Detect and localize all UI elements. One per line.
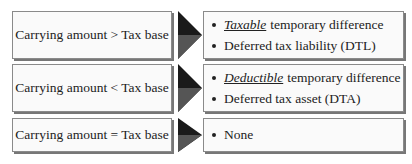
condition-label: Carrying amount < Tax base <box>15 80 168 96</box>
list-item: Deductible temporary difference <box>212 70 403 86</box>
condition-label: Carrying amount > Tax base <box>15 27 168 43</box>
arrow-right-icon <box>178 11 202 59</box>
condition-label: Carrying amount = Tax base <box>15 127 168 143</box>
result-box: Taxable temporary difference Deferred ta… <box>203 11 404 59</box>
bullet-icon <box>212 76 216 80</box>
arrow-right-icon <box>178 118 202 152</box>
result-box: Deductible temporary difference Deferred… <box>203 64 404 112</box>
list-item: Deferred tax liability (DTL) <box>212 38 403 54</box>
result-text: Deferred tax liability (DTL) <box>224 38 376 54</box>
result-text: temporary difference <box>287 70 400 86</box>
condition-box: Carrying amount = Tax base <box>12 118 172 152</box>
list-item: Deferred tax asset (DTA) <box>212 91 403 107</box>
bullet-icon <box>212 44 216 48</box>
emphasis-text: Deductible <box>224 70 283 86</box>
result-text: None <box>224 127 253 143</box>
list-item: None <box>212 127 403 143</box>
emphasis-text: Taxable <box>224 17 266 33</box>
bullet-icon <box>212 97 216 101</box>
row-dtl: Carrying amount > Tax base Taxable tempo… <box>12 11 404 59</box>
result-text: temporary difference <box>270 17 383 33</box>
arrow-right-icon <box>178 64 202 112</box>
row-none: Carrying amount = Tax base None <box>12 118 404 152</box>
list-item: Taxable temporary difference <box>212 17 403 33</box>
result-text: Deferred tax asset (DTA) <box>224 91 360 107</box>
row-dta: Carrying amount < Tax base Deductible te… <box>12 64 404 112</box>
bullet-icon <box>212 23 216 27</box>
condition-box: Carrying amount > Tax base <box>12 11 172 59</box>
condition-box: Carrying amount < Tax base <box>12 64 172 112</box>
result-box: None <box>203 118 404 152</box>
bullet-icon <box>212 133 216 137</box>
